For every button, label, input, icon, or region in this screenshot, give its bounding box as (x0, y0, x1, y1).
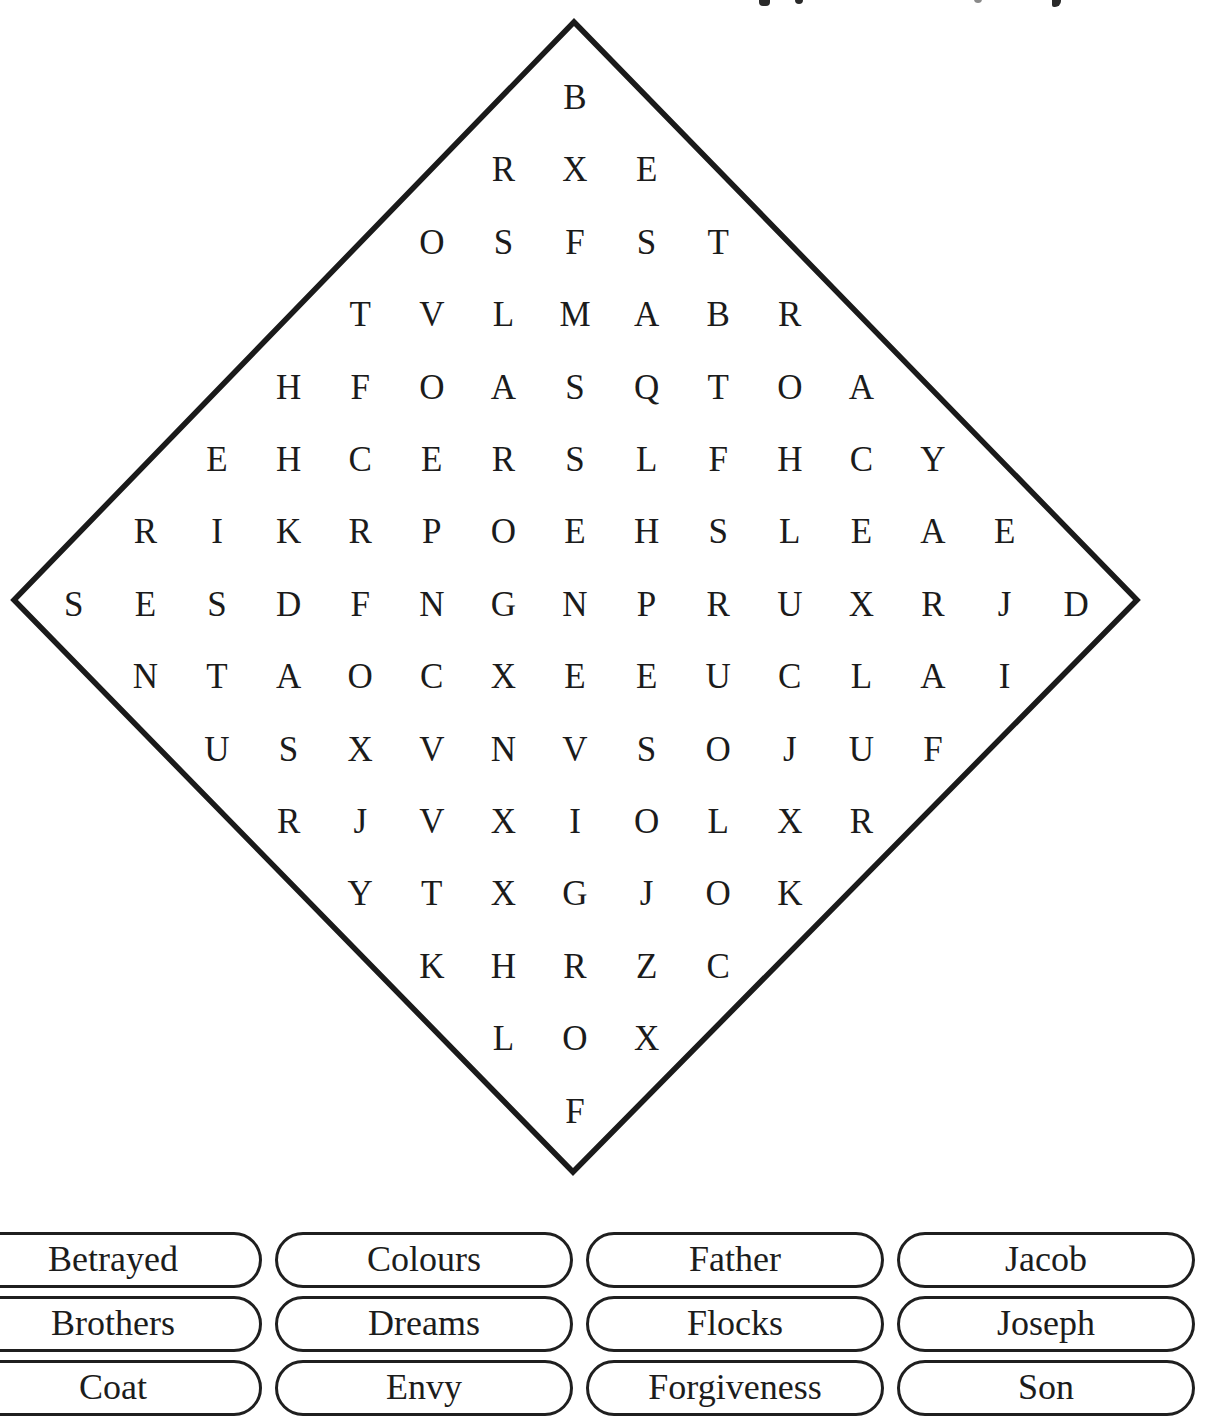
grid-letter[interactable]: E (851, 514, 872, 549)
grid-letter[interactable]: S (207, 586, 226, 621)
grid-letter[interactable]: Z (636, 948, 657, 983)
grid-letter[interactable]: O (706, 876, 731, 911)
grid-letter[interactable]: S (64, 586, 83, 621)
grid-letter[interactable]: X (849, 586, 874, 621)
grid-letter[interactable]: R (349, 514, 372, 549)
grid-letter[interactable]: E (564, 514, 585, 549)
grid-letter[interactable]: S (708, 514, 727, 549)
grid-letter[interactable]: X (562, 152, 587, 187)
grid-letter[interactable]: F (350, 369, 369, 404)
grid-letter[interactable]: F (565, 224, 584, 259)
grid-letter[interactable]: J (783, 731, 797, 766)
grid-letter[interactable]: A (276, 659, 301, 694)
grid-letter[interactable]: H (491, 948, 516, 983)
grid-letter[interactable]: T (707, 224, 728, 259)
grid-letter[interactable]: R (492, 152, 515, 187)
word-pill-envy[interactable]: Envy (275, 1360, 573, 1416)
grid-letter[interactable]: V (419, 297, 444, 332)
grid-letter[interactable]: G (562, 876, 587, 911)
grid-letter[interactable]: F (708, 442, 727, 477)
grid-letter[interactable]: B (707, 297, 730, 332)
grid-letter[interactable]: S (637, 731, 656, 766)
grid-letter[interactable]: H (276, 442, 301, 477)
grid-letter[interactable]: K (777, 876, 802, 911)
grid-letter[interactable]: R (492, 442, 515, 477)
grid-letter[interactable]: X (491, 876, 516, 911)
grid-letter[interactable]: O (777, 369, 802, 404)
grid-letter[interactable]: L (493, 297, 514, 332)
grid-letter[interactable]: N (133, 659, 158, 694)
grid-letter[interactable]: J (353, 804, 367, 839)
word-pill-forgiveness[interactable]: Forgiveness (586, 1360, 884, 1416)
grid-letter[interactable]: N (491, 731, 516, 766)
grid-letter[interactable]: G (491, 586, 516, 621)
grid-letter[interactable]: B (563, 80, 586, 115)
grid-letter[interactable]: C (707, 948, 730, 983)
word-pill-dreams[interactable]: Dreams (275, 1296, 573, 1352)
grid-letter[interactable]: A (849, 369, 874, 404)
grid-letter[interactable]: A (634, 297, 659, 332)
grid-letter[interactable]: X (491, 659, 516, 694)
grid-letter[interactable]: P (637, 586, 656, 621)
grid-letter[interactable]: T (421, 876, 442, 911)
grid-letter[interactable]: R (850, 804, 873, 839)
grid-letter[interactable]: F (565, 1093, 584, 1128)
word-pill-son[interactable]: Son (897, 1360, 1195, 1416)
grid-letter[interactable]: H (634, 514, 659, 549)
grid-letter[interactable]: P (422, 514, 441, 549)
grid-letter[interactable]: R (707, 586, 730, 621)
grid-letter[interactable]: C (349, 442, 372, 477)
grid-letter[interactable]: K (276, 514, 301, 549)
grid-letter[interactable]: L (779, 514, 800, 549)
word-pill-betrayed[interactable]: Betrayed (0, 1232, 262, 1288)
grid-letter[interactable]: F (923, 731, 942, 766)
grid-letter[interactable]: A (920, 514, 945, 549)
grid-letter[interactable]: X (634, 1021, 659, 1056)
grid-letter[interactable]: S (565, 369, 584, 404)
grid-letter[interactable]: R (563, 948, 586, 983)
grid-letter[interactable]: Y (920, 442, 945, 477)
grid-letter[interactable]: J (640, 876, 654, 911)
grid-letter[interactable]: T (206, 659, 227, 694)
grid-letter[interactable]: E (564, 659, 585, 694)
grid-letter[interactable]: O (491, 514, 516, 549)
grid-letter[interactable]: U (706, 659, 731, 694)
word-pill-joseph[interactable]: Joseph (897, 1296, 1195, 1352)
grid-letter[interactable]: C (850, 442, 873, 477)
grid-letter[interactable]: R (921, 586, 944, 621)
grid-letter[interactable]: R (778, 297, 801, 332)
grid-letter[interactable]: R (277, 804, 300, 839)
grid-letter[interactable]: R (134, 514, 157, 549)
grid-letter[interactable]: D (1064, 586, 1089, 621)
grid-letter[interactable]: S (279, 731, 298, 766)
grid-letter[interactable]: O (562, 1021, 587, 1056)
grid-letter[interactable]: V (419, 731, 444, 766)
grid-letter[interactable]: L (851, 659, 872, 694)
grid-letter[interactable]: N (562, 586, 587, 621)
grid-letter[interactable]: S (565, 442, 584, 477)
word-pill-colours[interactable]: Colours (275, 1232, 573, 1288)
grid-letter[interactable]: U (849, 731, 874, 766)
grid-letter[interactable]: X (348, 731, 373, 766)
grid-letter[interactable]: E (135, 586, 156, 621)
grid-letter[interactable]: T (349, 297, 370, 332)
grid-letter[interactable]: T (707, 369, 728, 404)
grid-letter[interactable]: X (777, 804, 802, 839)
grid-letter[interactable]: V (419, 804, 444, 839)
grid-letter[interactable]: K (419, 948, 444, 983)
grid-letter[interactable]: A (491, 369, 516, 404)
word-pill-jacob[interactable]: Jacob (897, 1232, 1195, 1288)
grid-letter[interactable]: O (348, 659, 373, 694)
grid-letter[interactable]: C (778, 659, 801, 694)
grid-letter[interactable]: J (998, 586, 1012, 621)
grid-letter[interactable]: L (636, 442, 657, 477)
grid-letter[interactable]: I (211, 514, 223, 549)
word-pill-coat[interactable]: Coat (0, 1360, 262, 1416)
grid-letter[interactable]: N (419, 586, 444, 621)
word-pill-flocks[interactable]: Flocks (586, 1296, 884, 1352)
grid-letter[interactable]: O (419, 369, 444, 404)
grid-letter[interactable]: E (636, 152, 657, 187)
grid-letter[interactable]: U (777, 586, 802, 621)
grid-letter[interactable]: E (421, 442, 442, 477)
grid-letter[interactable]: H (276, 369, 301, 404)
